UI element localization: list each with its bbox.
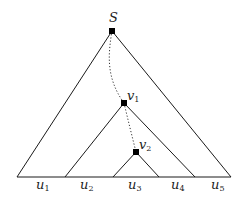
triangle-inner	[113, 152, 159, 177]
path-v1-v2	[124, 103, 136, 152]
label-u2: u2	[80, 177, 93, 193]
path-S-v1	[109, 31, 124, 103]
label-u4: u4	[171, 177, 184, 193]
label-v2: v2	[139, 137, 151, 153]
tree-diagram: Sv1v2u1u2u3u4u5	[0, 0, 245, 204]
labels: Sv1v2u1u2u3u4u5	[36, 10, 224, 193]
label-u1: u1	[36, 177, 49, 193]
triangle-middle	[65, 103, 195, 177]
label-v1: v1	[127, 88, 139, 104]
node-S	[109, 28, 115, 34]
label-u5: u5	[211, 177, 224, 193]
label-S: S	[109, 10, 118, 25]
label-u3: u3	[128, 177, 141, 193]
nodes	[109, 28, 139, 155]
